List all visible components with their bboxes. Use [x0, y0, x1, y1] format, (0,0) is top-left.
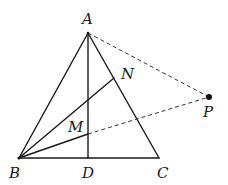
label-D: D [81, 164, 94, 182]
geometry-diagram: A B C D N M P [0, 0, 228, 185]
segment-BN [19, 78, 114, 158]
point-P-dot [206, 94, 212, 100]
label-B: B [8, 164, 20, 182]
segment-AB [19, 33, 88, 158]
segment-AC [88, 33, 159, 158]
dashed-segment-MP [88, 97, 209, 134]
label-N: N [120, 65, 135, 83]
label-C: C [157, 164, 169, 182]
label-P: P [202, 103, 214, 121]
vertex-A-dot [87, 32, 90, 35]
segment-BM [19, 134, 88, 158]
vertex-B-dot [17, 156, 20, 159]
label-A: A [80, 10, 93, 28]
label-M: M [67, 118, 84, 136]
